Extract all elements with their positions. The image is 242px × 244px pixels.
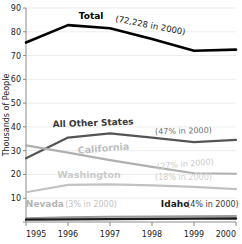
y-tick-label: 40 xyxy=(11,123,21,132)
series-line-idaho xyxy=(26,218,236,219)
x-tick-group: 199519961997199819992000 xyxy=(26,222,236,239)
x-tick-label: 1996 xyxy=(58,230,78,239)
series-annotation-california: (27% in 2000) xyxy=(157,157,214,171)
y-tick-label: 20 xyxy=(11,170,21,179)
series-label-idaho: Idaho xyxy=(161,199,189,209)
x-tick-label: 1999 xyxy=(184,230,204,239)
series-annotation-nevada: (3% in 2000) xyxy=(65,200,117,209)
series-label-total: Total xyxy=(79,11,104,21)
y-tick-label: 50 xyxy=(11,99,21,108)
y-tick-group: 102030405060708090 xyxy=(11,4,26,222)
x-tick-label: 1998 xyxy=(142,230,162,239)
y-tick-label: 10 xyxy=(11,194,21,203)
x-tick-label: 2000 xyxy=(216,230,236,239)
y-axis: 102030405060708090 xyxy=(11,4,26,222)
series-label-california: California xyxy=(77,140,129,155)
series-label-nevada: Nevada xyxy=(26,199,64,209)
series-line-washington xyxy=(26,184,236,192)
series-labels: Total(72,228 in 2000)All Other States(47… xyxy=(26,11,239,210)
y-tick-label: 30 xyxy=(11,147,21,156)
series-line-total xyxy=(26,25,236,51)
series-annotation-idaho: (4% in 2000) xyxy=(187,200,239,209)
y-tick-label: 80 xyxy=(11,28,21,37)
series-line-all-other-states xyxy=(26,133,236,158)
series-annotation-washington: (18% in 2000) xyxy=(155,173,212,182)
x-tick-label: 1997 xyxy=(100,230,120,239)
chart-svg: 102030405060708090 199519961997199819992… xyxy=(0,0,242,244)
y-tick-label: 60 xyxy=(11,75,21,84)
series-label-all-other-states: All Other States xyxy=(52,117,133,130)
line-chart: 102030405060708090 199519961997199819992… xyxy=(0,0,242,244)
series-label-washington: Washington xyxy=(57,169,121,180)
y-tick-label: 70 xyxy=(11,52,21,61)
series-annotation-all-other-states: (47% in 2000) xyxy=(155,126,212,136)
x-tick-label: 1995 xyxy=(26,230,46,239)
y-tick-label: 90 xyxy=(11,4,21,13)
y-axis-title: Thousands of People xyxy=(2,74,11,158)
x-axis: 199519961997199819992000 xyxy=(26,222,236,239)
